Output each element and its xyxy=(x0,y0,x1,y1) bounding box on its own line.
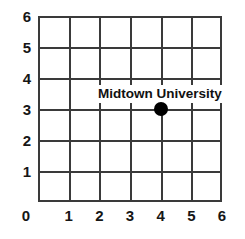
grid-line-horizontal-5 xyxy=(40,47,220,49)
grid-line-horizontal-1 xyxy=(40,171,220,173)
y-axis-tick-4: 4 xyxy=(9,71,31,86)
x-axis-tick-5: 5 xyxy=(179,208,203,223)
x-axis-tick-3: 3 xyxy=(118,208,142,223)
y-axis-tick-3: 3 xyxy=(9,102,31,117)
y-axis-tick-2: 2 xyxy=(9,133,31,148)
point-label-midtown-university: Midtown University xyxy=(96,85,224,103)
y-axis-tick-5: 5 xyxy=(9,40,31,55)
y-axis-tick-1: 1 xyxy=(9,164,31,179)
x-axis-tick-4: 4 xyxy=(149,208,173,223)
x-axis-tick-1: 1 xyxy=(57,208,81,223)
grid-lines xyxy=(40,18,220,200)
grid-line-horizontal-2 xyxy=(40,140,220,142)
plot-grid-area xyxy=(38,16,222,202)
coordinate-grid-figure: 6 5 4 3 2 1 Midtown University 0 1 2 3 4… xyxy=(0,0,245,239)
data-point-midtown-university xyxy=(154,102,168,116)
grid-line-horizontal-4 xyxy=(40,78,220,80)
x-axis-tick-0: 0 xyxy=(14,208,38,223)
x-axis-tick-2: 2 xyxy=(87,208,111,223)
y-axis-tick-6: 6 xyxy=(9,9,31,24)
x-axis-tick-6: 6 xyxy=(210,208,234,223)
grid-line-horizontal-3 xyxy=(40,109,220,111)
